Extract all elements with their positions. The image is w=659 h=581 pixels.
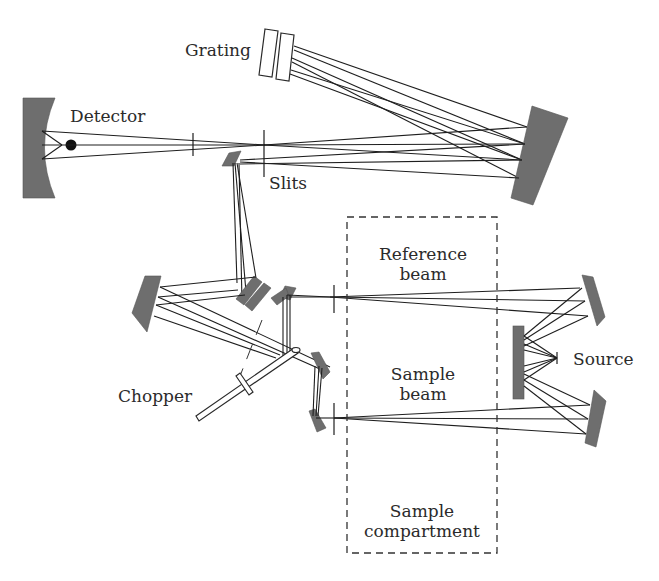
chopper-label: Chopper — [118, 387, 192, 407]
chopper-axis — [240, 320, 262, 376]
grating-label: Grating — [185, 41, 251, 61]
detector-label: Detector — [70, 107, 145, 127]
reference-rays — [283, 288, 588, 357]
reference-beam-line1: Reference — [368, 245, 478, 265]
detector-mirror — [23, 98, 55, 198]
source-mirror-upper — [582, 275, 605, 326]
chopper — [196, 348, 300, 422]
collimating-mirror — [511, 106, 568, 205]
reference-beam-label: Reference beam — [368, 245, 478, 284]
sample-beam-line1: Sample — [368, 365, 478, 385]
source-label: Source — [573, 350, 634, 370]
slits-label: Slits — [269, 174, 307, 194]
sample-beam-line2: beam — [368, 385, 478, 405]
fold-mirror — [222, 151, 241, 166]
sample-mirror-lower — [309, 409, 326, 432]
collimator-rays — [240, 127, 527, 178]
sample-beam-label: Sample beam — [368, 365, 478, 404]
reference-beam-line2: beam — [368, 265, 478, 285]
sample-compartment-label: Sample compartment — [352, 502, 492, 541]
left-mirror — [132, 276, 161, 332]
spectrophotometer-diagram — [0, 0, 659, 581]
source-back-mirror — [513, 326, 524, 399]
sample-compartment-line1: Sample — [352, 502, 492, 522]
grating — [259, 29, 294, 81]
sample-compartment-line2: compartment — [352, 522, 492, 542]
